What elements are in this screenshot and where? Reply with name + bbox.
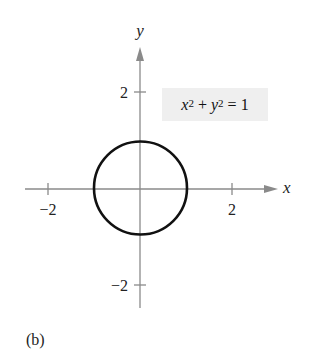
eq-y: y — [211, 96, 218, 114]
x-axis-arrow-icon — [264, 185, 278, 193]
x-tick-label-2: 2 — [228, 201, 236, 218]
equation-label: x2 + y2 = 1 — [162, 88, 268, 121]
eq-plus: + — [194, 96, 211, 114]
y-tick-label-2: 2 — [120, 84, 128, 101]
y-axis-arrow-icon — [136, 47, 144, 61]
y-tick-label-neg2: −2 — [111, 277, 128, 294]
eq-sup1: 2 — [188, 97, 194, 109]
circle-graph: −2 2 2 −2 x y — [0, 0, 314, 349]
x-tick-label-neg2: −2 — [39, 201, 56, 218]
eq-sup2: 2 — [218, 97, 224, 109]
eq-x: x — [181, 96, 188, 114]
figure-caption: (b) — [26, 331, 45, 349]
y-axis-label: y — [134, 21, 144, 40]
eq-rest: = 1 — [224, 96, 249, 114]
x-axis-label: x — [282, 178, 291, 197]
